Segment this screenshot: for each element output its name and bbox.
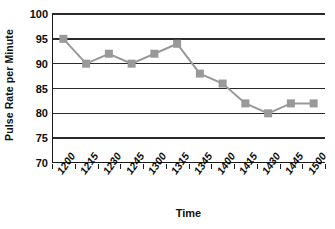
- x-axis-tick-mark: [120, 164, 121, 169]
- x-axis-tick-mark: [52, 164, 53, 169]
- x-axis-tick-mark: [302, 164, 303, 169]
- y-axis-title: Pulse Rate per Minute: [0, 0, 18, 170]
- x-axis-tick-mark: [257, 164, 258, 169]
- x-axis-tick-mark: [143, 164, 144, 169]
- y-axis-tick-label: 75: [18, 133, 48, 144]
- y-axis-tick-label: 100: [18, 9, 48, 20]
- y-axis-tick-label: 90: [18, 58, 48, 69]
- x-axis-tick-mark: [234, 164, 235, 169]
- data-point-marker: [150, 50, 158, 58]
- x-axis-tick-mark: [189, 164, 190, 169]
- data-series: [52, 14, 325, 163]
- x-axis-tick-mark: [325, 164, 326, 169]
- data-point-marker: [241, 99, 249, 107]
- data-point-marker: [82, 60, 90, 68]
- x-axis-tick-mark: [280, 164, 281, 169]
- y-axis-tick-label: 70: [18, 158, 48, 169]
- data-point-marker: [264, 109, 272, 117]
- x-axis-tick-mark: [98, 164, 99, 169]
- y-axis-tick-labels: 707580859095100: [18, 8, 50, 170]
- data-point-marker: [310, 99, 318, 107]
- data-point-marker: [287, 99, 295, 107]
- data-point-marker: [173, 40, 181, 48]
- x-axis-tick-mark: [75, 164, 76, 169]
- y-axis-tick-label: 95: [18, 33, 48, 44]
- data-point-marker: [59, 35, 67, 43]
- data-point-marker: [128, 60, 136, 68]
- data-point-marker: [105, 50, 113, 58]
- data-point-marker: [196, 70, 204, 78]
- y-axis-tick-label: 80: [18, 108, 48, 119]
- pulse-rate-line-chart: Pulse Rate per Minute 707580859095100 12…: [0, 0, 335, 229]
- x-axis-tick-labels: 1200121512301245130013151345140014151430…: [52, 170, 335, 204]
- y-axis-title-text: Pulse Rate per Minute: [3, 29, 15, 141]
- y-axis-tick-label: 85: [18, 83, 48, 94]
- data-point-marker: [219, 80, 227, 88]
- x-axis-tick-mark: [211, 164, 212, 169]
- x-axis-title: Time: [52, 207, 325, 219]
- x-axis-tick-mark: [166, 164, 167, 169]
- plot-area: [52, 14, 325, 163]
- series-line: [63, 39, 313, 114]
